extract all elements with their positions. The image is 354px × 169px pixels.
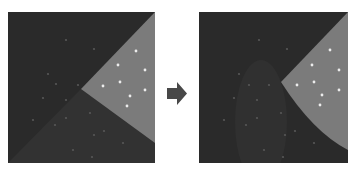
dim-dot xyxy=(248,84,250,86)
bright-dot xyxy=(135,50,138,53)
dim-dot xyxy=(256,117,258,119)
dim-dot xyxy=(65,117,67,119)
dim-dot xyxy=(280,112,282,114)
bright-dot xyxy=(313,81,316,84)
before-panel xyxy=(8,12,155,163)
dim-dot xyxy=(245,124,247,126)
dim-dot xyxy=(65,39,67,41)
dim-dot xyxy=(32,119,34,121)
dim-dot xyxy=(284,134,286,136)
dim-dot xyxy=(55,83,57,85)
dim-dot xyxy=(89,112,91,114)
dim-dot xyxy=(286,48,288,50)
dim-dot xyxy=(93,134,95,136)
bright-dot xyxy=(329,49,332,52)
bright-dot xyxy=(321,94,324,97)
bright-dot xyxy=(102,85,105,88)
dim-dot xyxy=(238,73,240,75)
dim-dot xyxy=(42,97,44,99)
bright-dot xyxy=(126,105,129,108)
bright-dot xyxy=(129,95,132,98)
dim-dot xyxy=(282,156,284,158)
dim-dot xyxy=(93,48,95,50)
bright-dot xyxy=(319,104,322,107)
dim-dot xyxy=(91,156,93,158)
dim-dot xyxy=(294,130,296,132)
right-arrow-icon xyxy=(165,81,189,106)
dim-dot xyxy=(313,142,315,144)
dim-dot xyxy=(263,149,265,151)
bright-dot xyxy=(296,84,299,87)
dim-dot xyxy=(103,130,105,132)
bright-dot xyxy=(338,89,341,92)
after-panel xyxy=(199,12,348,163)
dim-dot xyxy=(72,149,74,151)
bright-dot xyxy=(117,64,120,67)
bright-dot xyxy=(311,64,314,67)
dim-dot xyxy=(65,99,67,101)
dim-dot xyxy=(47,73,49,75)
dim-dot xyxy=(54,124,56,126)
bright-dot xyxy=(338,69,341,72)
dim-dot xyxy=(258,39,260,41)
bright-dot xyxy=(144,89,147,92)
dim-dot xyxy=(256,99,258,101)
bright-dot xyxy=(119,81,122,84)
after-diagram xyxy=(199,12,348,163)
dim-dot xyxy=(223,119,225,121)
bright-dot xyxy=(144,69,147,72)
dim-dot xyxy=(77,84,79,86)
before-diagram xyxy=(8,12,155,163)
dim-dot xyxy=(122,142,124,144)
dim-dot xyxy=(233,97,235,99)
dim-dot xyxy=(268,84,270,86)
